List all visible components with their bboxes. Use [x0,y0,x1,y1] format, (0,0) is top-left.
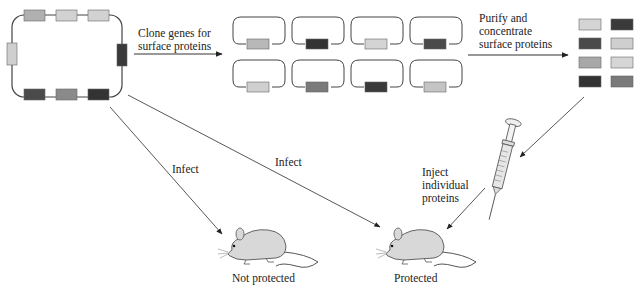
plasmid [410,60,462,92]
gene-bottom-2 [56,89,77,100]
infect-arrow-left [110,107,222,234]
purify-label: Purify and concentrate surface proteins [479,12,552,51]
purified-protein [579,19,601,30]
clone-label: Clone genes for surface proteins [138,27,211,53]
mouse-protected-icon [376,228,476,267]
not-protected-label: Not protected [232,272,295,285]
gene-top-2 [56,10,77,21]
infect-label-left: Infect [172,163,199,176]
cloned-gene [365,39,387,49]
protein-to-syringe-arrow [520,97,584,157]
mouse-not-protected-icon [218,228,318,267]
purified-protein [611,76,633,87]
plasmid [233,17,285,49]
inject-label: Inject individual proteins [422,166,469,205]
plasmid [351,17,403,49]
infect-label-middle: Infect [275,156,302,169]
purified-protein [611,19,633,30]
cloned-gene [306,82,328,92]
cloned-gene [306,39,328,49]
purified-protein [579,57,601,68]
purified-protein [611,38,633,49]
pathogen-genome [7,10,127,100]
gene-right [117,44,127,66]
cloned-gene [247,82,269,92]
plasmid [233,60,285,92]
purified-proteins [579,19,633,87]
plasmid [410,17,462,49]
plasmid-grid [233,17,462,92]
purified-protein [611,57,633,68]
gene-top-3 [88,10,109,21]
plasmid [292,60,344,92]
plasmid [292,17,344,49]
cloned-gene [424,82,446,92]
gene-bottom-1 [24,89,45,100]
purified-protein [579,76,601,87]
gene-left [7,43,17,65]
cloned-gene [247,39,269,49]
infect-arrow-middle [128,95,380,227]
cloned-gene [365,82,387,92]
plasmid [351,60,403,92]
gene-top-1 [24,10,45,21]
protected-label: Protected [394,272,437,285]
gene-bottom-3 [88,89,109,100]
syringe-icon [481,117,522,221]
cloned-gene [424,39,446,49]
purified-protein [579,38,601,49]
vaccine-diagram: Clone genes for surface proteins Purify … [0,0,636,288]
